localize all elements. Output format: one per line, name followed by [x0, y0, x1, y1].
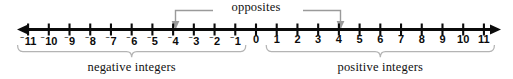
tick-number: 3 [193, 35, 199, 47]
tick-label--10: ⁻10 [40, 33, 57, 47]
tick-label-0: 0 [253, 33, 259, 45]
tick-label--4: ⁻4 [168, 33, 179, 47]
tick-label-9: 9 [439, 33, 445, 45]
right-arrowhead-icon [490, 25, 501, 35]
tick-number: 1 [235, 35, 241, 47]
tick-label--7: ⁻7 [105, 33, 116, 47]
tick-label--8: ⁻8 [85, 33, 96, 47]
tick-label-10: 10 [457, 33, 469, 45]
tick-label--1: ⁻1 [230, 33, 241, 47]
tick-label-7: 7 [398, 33, 404, 45]
tick-number: 7 [110, 35, 116, 47]
tick-number: 11 [25, 35, 37, 47]
tick-number: 2 [214, 35, 220, 47]
tick-label--5: ⁻5 [147, 33, 158, 47]
group-caption-positive-integers: positive integers [337, 60, 423, 74]
tick-label-1: 1 [274, 33, 280, 45]
tick-number: 5 [152, 35, 158, 47]
tick-label-8: 8 [419, 33, 425, 45]
tick-label-2: 2 [294, 33, 300, 45]
curly-brace-icon-positive-integers [266, 45, 494, 57]
tick-number: 9 [69, 35, 75, 47]
tick-number: 4 [173, 35, 179, 47]
number-line-figure: opposites ⁻11⁻10⁻9⁻8⁻7⁻6⁻5⁻4⁻3⁻2⁻1012345… [0, 0, 513, 79]
tick-label--3: ⁻3 [188, 33, 199, 47]
tick-label-5: 5 [357, 33, 363, 45]
tick-label--11: ⁻11 [20, 33, 37, 47]
tick-label-3: 3 [315, 33, 321, 45]
tick-number: 10 [45, 35, 57, 47]
group-caption-negative-integers: negative integers [87, 60, 175, 74]
tick-number: 6 [131, 35, 137, 47]
tick-number: 8 [90, 35, 96, 47]
tick-label--9: ⁻9 [64, 33, 75, 47]
tick-label-6: 6 [377, 33, 383, 45]
tick-label-4: 4 [336, 33, 342, 45]
tick-label--2: ⁻2 [209, 33, 220, 47]
tick-label--6: ⁻6 [126, 33, 137, 47]
tick-label-11: 11 [478, 33, 490, 45]
